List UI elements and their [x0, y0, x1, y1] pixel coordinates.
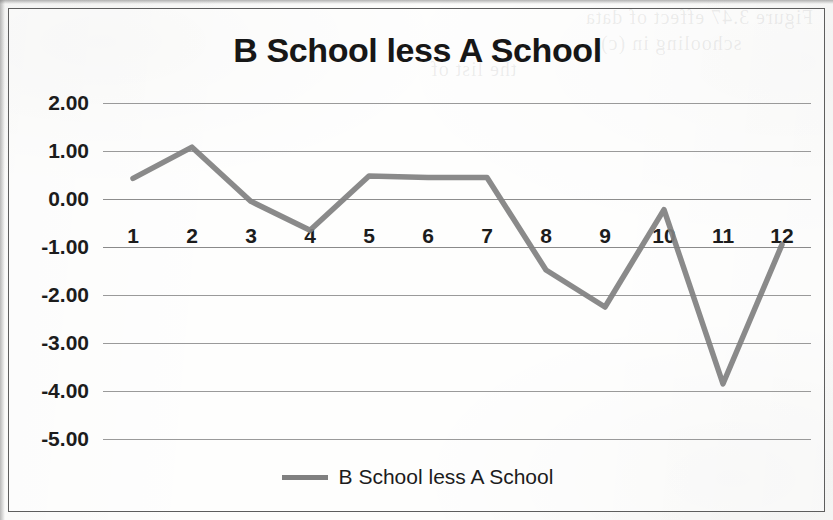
legend-label: B School less A School	[339, 465, 554, 489]
y-axis-label: -1.00	[41, 235, 89, 259]
chart-frame: B School less A School 2.001.000.00-1.00…	[8, 8, 825, 512]
chart-title: B School less A School	[9, 31, 826, 70]
legend-line-swatch	[282, 475, 328, 480]
y-axis-label: 0.00	[48, 187, 89, 211]
y-axis-label: -4.00	[41, 379, 89, 403]
series-line	[133, 147, 782, 384]
y-axis-label: 1.00	[48, 139, 89, 163]
chart-legend: B School less A School	[9, 465, 826, 489]
plot-area: 2.001.000.00-1.00-2.00-3.00-4.00-5.00 12…	[103, 103, 811, 439]
gridline--5-00	[103, 439, 811, 440]
scanned-page: Figure 3.47 effect of dataschooling in (…	[0, 0, 833, 520]
y-axis-label: 2.00	[48, 91, 89, 115]
y-axis-label: -3.00	[41, 331, 89, 355]
scan-edge-left	[0, 0, 5, 520]
y-axis-label: -2.00	[41, 283, 89, 307]
scan-edge-top	[0, 0, 833, 4]
data-series-group	[103, 103, 811, 439]
y-axis-label: -5.00	[41, 427, 89, 451]
